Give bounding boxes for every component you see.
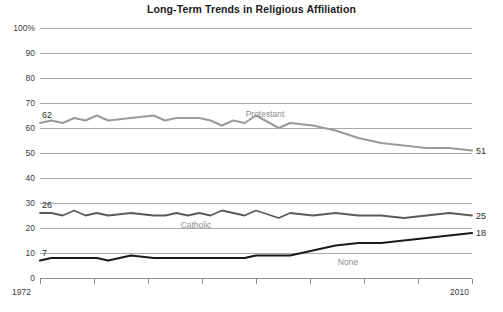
y-axis-tick-label: 50 bbox=[26, 148, 36, 158]
endpoint-value-labels: 62512625718 bbox=[42, 110, 486, 258]
x-axis-end-label: 2010 bbox=[450, 287, 469, 297]
y-axis-tick-label: 60 bbox=[26, 123, 36, 133]
series-label-catholic: Catholic bbox=[181, 220, 212, 230]
start-value-catholic: 26 bbox=[42, 200, 52, 210]
start-value-protestant: 62 bbox=[42, 110, 52, 120]
chart-container: Long-Term Trends in Religious Affiliatio… bbox=[0, 0, 503, 312]
y-axis-tick-label: 10 bbox=[26, 248, 36, 258]
y-axis-tick-label: 40 bbox=[26, 173, 36, 183]
x-axis: 19722010 bbox=[12, 279, 473, 298]
y-axis-labels: 0102030405060708090100% bbox=[13, 23, 35, 283]
y-axis-tick-label: 20 bbox=[26, 223, 36, 233]
end-value-none: 18 bbox=[476, 228, 486, 238]
series-label-protestant: Protestant bbox=[246, 109, 285, 119]
series-line-none bbox=[40, 233, 472, 261]
series-label-none: None bbox=[338, 257, 359, 267]
x-axis-start-label: 1972 bbox=[12, 287, 31, 297]
end-value-protestant: 51 bbox=[476, 146, 486, 156]
data-series-lines bbox=[40, 116, 472, 261]
start-value-none: 7 bbox=[42, 248, 47, 258]
y-axis-tick-label: 30 bbox=[26, 198, 36, 208]
end-value-catholic: 25 bbox=[476, 211, 486, 221]
line-chart-plot: 0102030405060708090100% 19722010 Protest… bbox=[0, 0, 503, 312]
y-axis-tick-label: 70 bbox=[26, 98, 36, 108]
y-axis-tick-label: 0 bbox=[30, 273, 35, 283]
series-line-catholic bbox=[40, 211, 472, 219]
y-axis-tick-label: 90 bbox=[26, 48, 36, 58]
y-axis-tick-label: 80 bbox=[26, 73, 36, 83]
series-line-protestant bbox=[40, 116, 472, 151]
y-axis-tick-label: 100% bbox=[13, 23, 35, 33]
series-inline-labels: ProtestantCatholicNone bbox=[181, 109, 359, 267]
